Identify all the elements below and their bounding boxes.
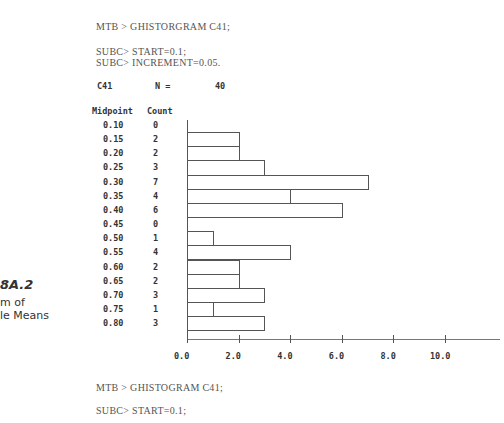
histogram-bar bbox=[187, 132, 240, 147]
count-label: 1 bbox=[153, 304, 158, 314]
count-label: 3 bbox=[153, 318, 158, 328]
midpoint-label: 0.35 bbox=[103, 191, 123, 201]
midpoint-label: 0.45 bbox=[103, 219, 123, 229]
x-tick bbox=[239, 335, 240, 343]
midpoint-label: 0.80 bbox=[103, 318, 123, 328]
midpoint-label: 0.70 bbox=[103, 290, 123, 300]
midpoint-label: 0.25 bbox=[103, 162, 123, 172]
count-label: 2 bbox=[153, 276, 158, 286]
histogram-bar bbox=[187, 316, 265, 331]
count-label: 0 bbox=[153, 120, 158, 130]
x-tick-label: 4.0 bbox=[277, 351, 292, 361]
midpoint-label: 0.20 bbox=[103, 148, 123, 158]
histogram-bar bbox=[187, 175, 369, 190]
midpoint-label: 0.55 bbox=[103, 247, 123, 257]
midpoint-label: 0.40 bbox=[103, 205, 123, 215]
x-tick-label: 2.0 bbox=[226, 351, 241, 361]
count-header: Count bbox=[147, 106, 173, 116]
subcommand-start: SUBC> START=0.1; bbox=[96, 46, 186, 57]
midpoint-label: 0.65 bbox=[103, 276, 123, 286]
count-label: 2 bbox=[153, 262, 158, 272]
midpoint-label: 0.30 bbox=[103, 177, 123, 187]
x-tick bbox=[290, 335, 291, 343]
histogram-bar bbox=[187, 302, 214, 317]
count-label: 3 bbox=[153, 162, 158, 172]
figure-number: 8A.2 bbox=[0, 277, 49, 292]
subcommand-increment: SUBC> INCREMENT=0.05. bbox=[96, 57, 221, 68]
midpoint-label: 0.75 bbox=[103, 304, 123, 314]
x-tick bbox=[393, 335, 394, 343]
count-label: 2 bbox=[153, 134, 158, 144]
x-tick-label: 8.0 bbox=[380, 351, 395, 361]
count-label: 4 bbox=[153, 191, 158, 201]
x-tick bbox=[445, 335, 446, 343]
histogram-bar bbox=[187, 203, 343, 218]
caption-line-2: le Means bbox=[0, 309, 49, 322]
n-value: 40 bbox=[215, 81, 225, 91]
x-tick bbox=[187, 335, 188, 343]
x-tick-label: 0.0 bbox=[174, 351, 189, 361]
histogram-bar bbox=[187, 189, 291, 204]
count-label: 2 bbox=[153, 148, 158, 158]
midpoint-label: 0.50 bbox=[103, 233, 123, 243]
command-line: MTB > GHISTORGRAM C41; bbox=[96, 21, 230, 32]
x-tick bbox=[342, 335, 343, 343]
histogram-bar bbox=[187, 288, 265, 303]
count-label: 4 bbox=[153, 247, 158, 257]
x-tick-label: 6.0 bbox=[329, 351, 344, 361]
count-label: 3 bbox=[153, 290, 158, 300]
count-label: 1 bbox=[153, 233, 158, 243]
n-label: N = bbox=[155, 81, 170, 91]
x-axis-line bbox=[187, 339, 500, 340]
midpoint-label: 0.15 bbox=[103, 134, 123, 144]
figure-caption: 8A.2 m of le Means bbox=[0, 277, 49, 322]
histogram-bar bbox=[187, 160, 265, 175]
midpoint-label: 0.60 bbox=[103, 262, 123, 272]
column-name: C41 bbox=[97, 81, 112, 91]
count-label: 0 bbox=[153, 219, 158, 229]
histogram-bar bbox=[187, 231, 214, 246]
count-label: 7 bbox=[153, 177, 158, 187]
midpoint-header: Midpoint bbox=[92, 106, 133, 116]
count-label: 6 bbox=[153, 205, 158, 215]
subcommand-start-bottom: SUBC> START=0.1; bbox=[96, 405, 186, 416]
caption-line-1: m of bbox=[0, 296, 49, 309]
histogram-bar bbox=[187, 146, 240, 161]
command-line-bottom: MTB > GHISTOGRAM C41; bbox=[96, 382, 223, 393]
histogram-bar bbox=[187, 260, 240, 275]
midpoint-label: 0.10 bbox=[103, 120, 123, 130]
x-tick-label: 10.0 bbox=[430, 351, 450, 361]
histogram-bar bbox=[187, 245, 291, 260]
histogram-bar bbox=[187, 274, 240, 289]
